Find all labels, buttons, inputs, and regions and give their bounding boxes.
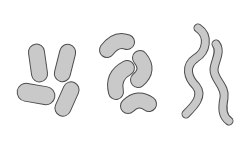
- vibrio-cell: [128, 100, 149, 106]
- bacillus-cell: [27, 43, 48, 83]
- vibrios-group: [107, 41, 149, 106]
- bacteria-shapes-diagram: [0, 0, 245, 151]
- vibrio-cell: [115, 68, 127, 92]
- bacilli-group: [16, 43, 82, 119]
- spirilla-group: [186, 28, 229, 121]
- bacillus-cell: [52, 79, 81, 118]
- vibrio-cell: [138, 58, 145, 80]
- spirillum-cell: [186, 28, 205, 114]
- bacillus-cell: [53, 43, 78, 84]
- bacillus-cell: [16, 82, 57, 106]
